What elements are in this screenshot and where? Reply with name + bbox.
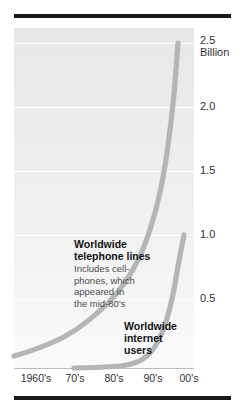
annotation-telephone-heading: Worldwide telephone lines	[74, 238, 150, 262]
annotation-telephone: Worldwide telephone lines Includes cell-…	[74, 238, 150, 309]
annotation-internet: Worldwide internet users	[124, 320, 177, 357]
x-tick-label-00s: 00's	[172, 372, 206, 384]
y-tick-label-0-5: 0.5	[200, 292, 215, 304]
top-rule	[14, 14, 231, 18]
annotation-telephone-note: Includes cell- phones, which appeared in…	[74, 263, 150, 309]
y-tick-label-1-5: 1.5	[200, 164, 215, 176]
y-tick-label-2-5: 2.5 Billion	[200, 34, 229, 58]
y-tick-label-2-0: 2.0	[200, 100, 215, 112]
bottom-rule	[14, 396, 231, 400]
chart-figure: 2.5 Billion 2.0 1.5 1.0 0.5 1960's 70's …	[0, 0, 247, 413]
x-tick-label-70s: 70's	[58, 372, 92, 384]
series-curves	[14, 28, 194, 369]
series-line-telephone	[14, 43, 178, 356]
x-tick-label-80s: 80's	[97, 372, 131, 384]
x-tick-label-90s: 90's	[136, 372, 170, 384]
annotation-internet-heading: Worldwide internet users	[124, 320, 177, 357]
x-tick-label-1960s: 1960's	[12, 372, 60, 384]
y-tick-label-1-0: 1.0	[200, 228, 215, 240]
